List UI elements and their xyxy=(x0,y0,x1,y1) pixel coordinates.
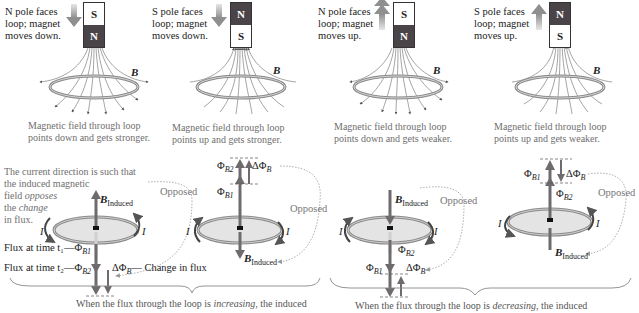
magnet-pole-bottom: N xyxy=(394,25,414,47)
magnet-pole-bottom: S xyxy=(231,25,251,47)
current-label: I xyxy=(40,226,44,238)
field-vector-label-2: B xyxy=(273,64,280,76)
phi-b2-label: ΦB2 xyxy=(398,244,415,260)
current-label: I xyxy=(186,226,190,238)
motion-arrow-down-icon xyxy=(211,4,227,27)
delta-flux-label: ΔΦB— Change in flux xyxy=(112,262,207,278)
field-vector-label-1: B xyxy=(131,66,138,78)
b-induced-label-a: BInduced xyxy=(100,193,133,208)
current-label: I xyxy=(286,226,290,238)
bar-magnet-1: S N xyxy=(83,2,105,48)
magnet-pole-top: S xyxy=(84,3,104,25)
opposed-label-a: Opposed xyxy=(160,186,197,197)
delta-phi-label: ΔΦB xyxy=(406,262,425,278)
phi-b2-label: ΦB2 xyxy=(556,188,573,204)
current-label: I xyxy=(596,218,600,230)
brace-decreasing xyxy=(330,278,631,295)
panel-2-caption: Magnetic field through loop points up an… xyxy=(172,122,284,146)
field-vector-label-3: B xyxy=(433,64,440,76)
summary-increasing: When the flux through the loop is increa… xyxy=(76,298,307,309)
flux-t2-label: Flux at time t₂—ΦB2 xyxy=(4,262,91,278)
phi-b1-label: ΦB1 xyxy=(524,168,541,184)
bar-magnet-2: N S xyxy=(230,2,252,48)
phi-b1-label: ΦB1 xyxy=(217,186,234,202)
b-induced-label-b: BInduced xyxy=(244,252,277,267)
field-vector-label-4: B xyxy=(593,64,600,76)
panel-1-label: N pole faces loop; magnet moves down. xyxy=(5,6,61,42)
motion-arrow-down-icon xyxy=(66,4,82,27)
current-label: I xyxy=(434,226,438,238)
panel-4-label: S pole faces loop; magnet moves up. xyxy=(474,6,529,42)
panel-3-caption: Magnetic field through loop points down … xyxy=(334,121,452,145)
current-label: I xyxy=(339,226,343,238)
opposed-label-c: Opposed xyxy=(440,195,477,206)
delta-phi-label: ΔΦB xyxy=(566,168,585,184)
brace-increasing xyxy=(10,278,320,293)
magnet-pole-top: S xyxy=(394,3,414,25)
current-label: I xyxy=(142,226,146,238)
panel-2-label: S pole faces loop; magnet moves down. xyxy=(152,6,208,42)
summary-decreasing: When the flux through the loop is decrea… xyxy=(355,300,587,311)
b-induced-label-c: BInduced xyxy=(395,193,428,208)
current-label: I xyxy=(498,218,502,230)
b-induced-label-d: BInduced xyxy=(555,246,588,261)
magnet-pole-bottom: N xyxy=(84,25,104,47)
opposed-label-b: Opposed xyxy=(290,203,327,214)
phi-b1-label: ΦB1 xyxy=(366,262,383,278)
bar-magnet-3: S N xyxy=(393,2,415,48)
magnet-pole-top: N xyxy=(550,3,570,25)
magnet-pole-bottom: S xyxy=(550,25,570,47)
magnet-pole-top: N xyxy=(231,3,251,25)
panel-4-caption: Magnetic field through loop points up an… xyxy=(494,121,606,145)
motion-arrow-up-icon xyxy=(531,4,547,30)
panel-3-label: N pole faces loop; magnet moves up. xyxy=(318,6,373,42)
opposed-connector-b xyxy=(278,166,320,262)
panel-1-caption: Magnetic field through loop points down … xyxy=(28,120,150,144)
delta-phi-label: ΔΦB xyxy=(252,160,271,176)
bar-magnet-4: N S xyxy=(549,2,571,48)
motion-arrow-up-icon xyxy=(374,0,390,30)
phi-b2-label: ΦB2 xyxy=(217,160,234,176)
opposed-label-d: Opposed xyxy=(598,187,635,198)
flux-t1-label: Flux at time t₁—ΦB1 xyxy=(4,242,91,258)
